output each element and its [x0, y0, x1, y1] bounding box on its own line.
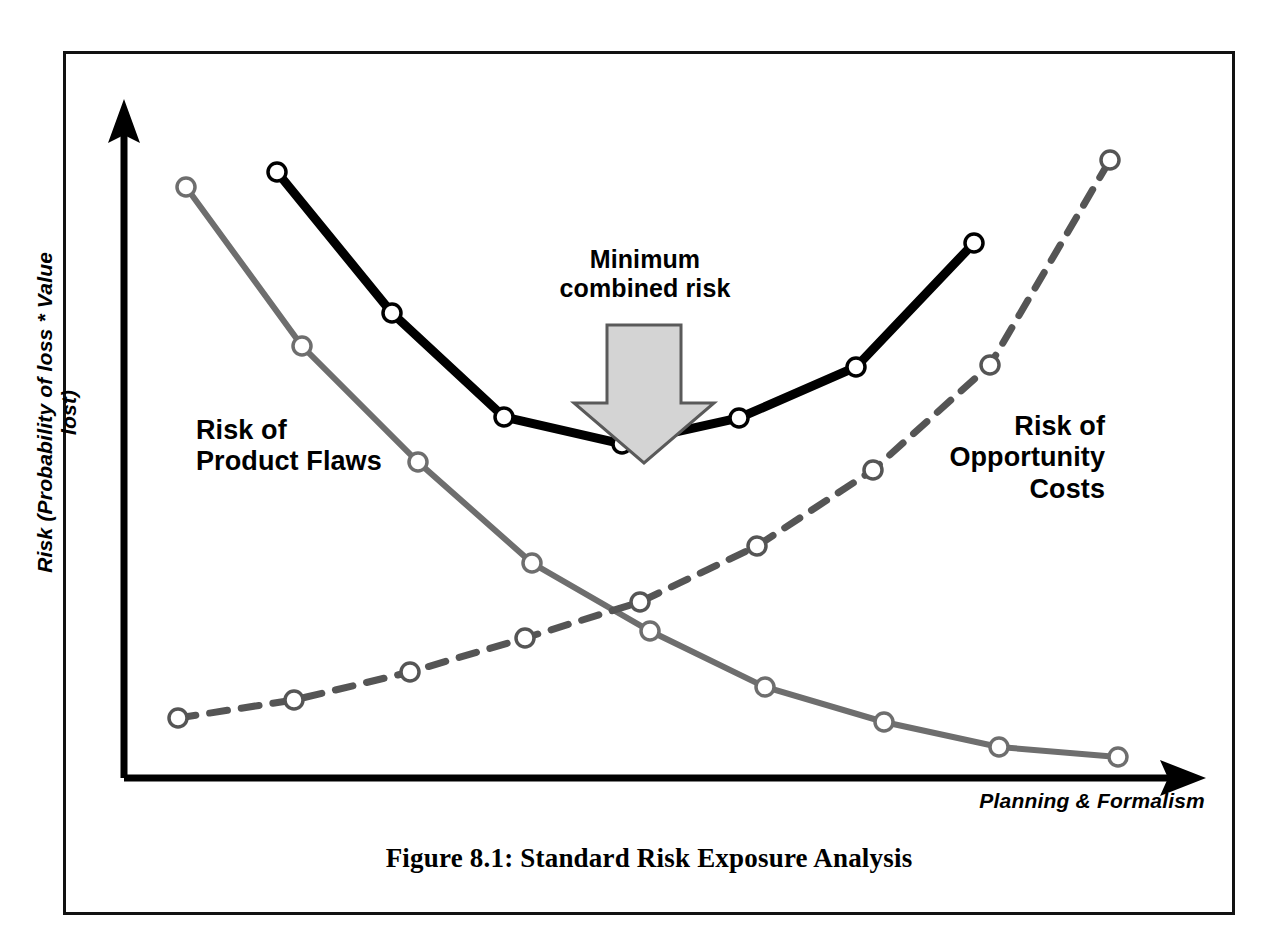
figure-page: Risk (Probability of loss * Value lost) … [0, 0, 1285, 937]
series-label-opportunity-costs: Risk of Opportunity Costs [875, 411, 1105, 505]
annotation-minimum-combined-risk: Minimum combined risk [520, 245, 770, 303]
x-axis-label: Planning & Formalism [880, 789, 1205, 813]
y-axis-label: Risk (Probability of loss * Value lost) [33, 247, 82, 577]
figure-caption: Figure 8.1: Standard Risk Exposure Analy… [63, 843, 1235, 874]
series-label-product-flaws: Risk of Product Flaws [196, 415, 382, 478]
